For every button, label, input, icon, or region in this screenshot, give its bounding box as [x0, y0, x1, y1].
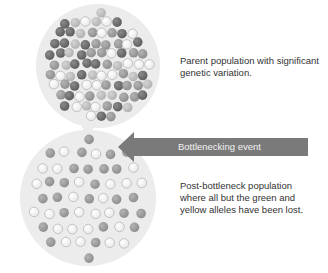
- allele-dark: [77, 70, 87, 80]
- allele-white: [75, 92, 85, 102]
- allele-mid: [136, 209, 146, 219]
- allele-mid: [97, 48, 107, 58]
- allele-white: [38, 164, 48, 174]
- allele-mid: [39, 222, 49, 232]
- allele-white: [68, 224, 78, 234]
- allele-light: [70, 39, 80, 49]
- allele-white: [97, 28, 107, 38]
- allele-mid: [53, 193, 63, 203]
- allele-light: [88, 70, 98, 80]
- allele-dark: [117, 48, 127, 58]
- allele-white: [69, 192, 79, 202]
- allele-mid: [56, 90, 66, 100]
- allele-white: [134, 60, 144, 70]
- allele-dark: [65, 91, 75, 101]
- allele-white: [29, 207, 39, 217]
- allele-white: [72, 102, 82, 112]
- allele-white: [76, 237, 86, 247]
- allele-white: [108, 70, 118, 80]
- allele-white: [74, 177, 84, 187]
- allele-white: [105, 208, 115, 218]
- allele-dark: [56, 48, 66, 58]
- allele-mid: [112, 164, 122, 174]
- allele-light: [62, 60, 72, 70]
- allele-dark: [70, 59, 80, 69]
- allele-dark: [112, 17, 122, 27]
- allele-white: [45, 209, 55, 219]
- allele-mid: [107, 28, 117, 38]
- allele-light: [64, 48, 74, 58]
- allele-dark: [81, 40, 91, 50]
- allele-white: [59, 147, 69, 157]
- allele-mid: [46, 237, 56, 247]
- allele-white: [83, 224, 93, 234]
- allele-light: [123, 103, 133, 113]
- allele-dark: [70, 81, 80, 91]
- post-bottleneck-label: Post-bottleneck population where all but…: [180, 180, 320, 216]
- allele-light: [92, 17, 102, 27]
- allele-white: [129, 163, 139, 173]
- allele-dark: [133, 37, 143, 47]
- allele-mid: [119, 69, 129, 79]
- allele-light: [96, 8, 106, 18]
- allele-mid: [122, 81, 132, 91]
- allele-mid: [99, 222, 109, 232]
- allele-white: [32, 179, 42, 189]
- allele-mid: [99, 164, 109, 174]
- allele-dark: [50, 39, 60, 49]
- allele-white: [53, 224, 63, 234]
- allele-light: [113, 61, 123, 71]
- allele-mid: [101, 80, 111, 90]
- allele-white: [119, 239, 129, 249]
- allele-light: [128, 72, 138, 82]
- allele-mid: [83, 164, 93, 174]
- allele-white: [82, 80, 92, 90]
- allele-mid: [50, 60, 60, 70]
- allele-mid: [138, 49, 148, 59]
- allele-mid: [60, 178, 70, 188]
- allele-white: [91, 149, 101, 159]
- allele-white: [86, 111, 96, 121]
- allele-dark: [77, 50, 87, 60]
- allele-white: [137, 178, 147, 188]
- allele-white: [102, 17, 112, 27]
- allele-dark: [55, 27, 65, 37]
- allele-dark: [138, 71, 148, 81]
- allele-dark: [82, 58, 92, 68]
- allele-mid: [103, 101, 113, 111]
- allele-mid: [88, 28, 98, 38]
- allele-white: [97, 71, 107, 81]
- allele-mid: [130, 223, 140, 233]
- allele-white: [91, 102, 101, 112]
- allele-mid: [77, 148, 87, 158]
- allele-mid: [90, 179, 100, 189]
- parent-population-label: Parent population with significant genet…: [180, 55, 320, 79]
- allele-mid: [119, 93, 129, 103]
- allele-white: [56, 71, 66, 81]
- allele-mid: [119, 208, 129, 218]
- allele-white: [123, 59, 133, 69]
- allele-dark: [60, 101, 70, 111]
- allele-white: [115, 222, 125, 232]
- allele-mid: [133, 81, 143, 91]
- allele-mid: [130, 92, 140, 102]
- allele-white: [107, 49, 117, 59]
- allele-mid: [91, 39, 101, 49]
- allele-white: [122, 179, 132, 189]
- allele-mid: [91, 238, 101, 248]
- allele-white: [81, 17, 91, 27]
- allele-mid: [106, 112, 116, 122]
- allele-mid: [129, 193, 139, 203]
- allele-dark: [113, 102, 123, 112]
- allele-mid: [103, 60, 113, 70]
- allele-white: [122, 40, 132, 50]
- allele-mid: [129, 48, 139, 58]
- allele-mid: [69, 164, 79, 174]
- allele-white: [106, 179, 116, 189]
- allele-white: [61, 237, 71, 247]
- allele-dark: [60, 19, 70, 29]
- allele-mid: [46, 148, 56, 158]
- allele-dark: [114, 81, 124, 91]
- allele-dark: [65, 27, 75, 37]
- allele-light: [82, 101, 92, 111]
